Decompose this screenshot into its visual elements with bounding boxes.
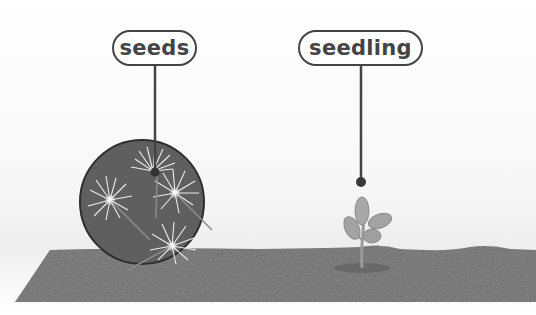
seedling-label: seedling bbox=[298, 30, 423, 66]
seeds-label: seeds bbox=[112, 30, 197, 66]
seedling-label-text: seedling bbox=[309, 36, 412, 60]
soil-ground bbox=[15, 245, 536, 302]
seed-core bbox=[169, 187, 181, 199]
seed-core bbox=[104, 194, 116, 206]
seeds-label-text: seeds bbox=[119, 36, 189, 60]
diagram-scene bbox=[0, 0, 536, 315]
seedling-pointer bbox=[356, 66, 366, 187]
seed-core bbox=[166, 240, 178, 252]
